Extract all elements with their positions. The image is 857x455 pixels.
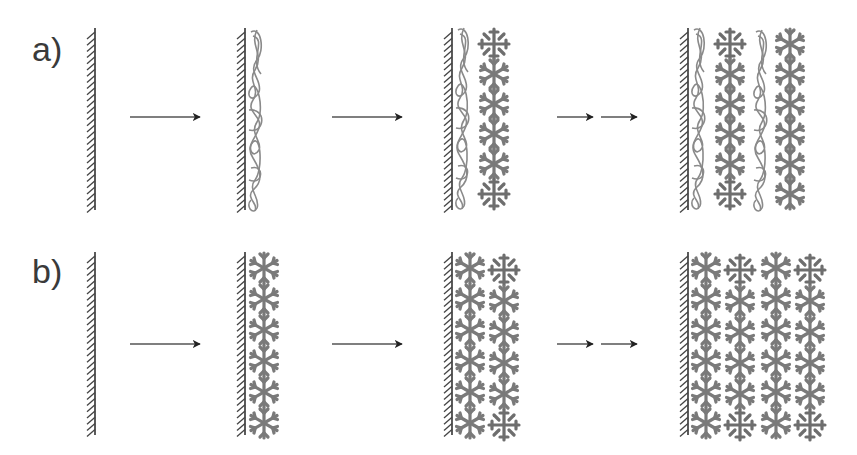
particle-icon <box>481 119 508 149</box>
wall-b-1 <box>87 252 95 437</box>
particle-icon <box>479 179 509 209</box>
particle-icon <box>725 410 755 440</box>
particle-icon <box>693 346 720 376</box>
polymer-coil-icon <box>249 30 262 211</box>
particle-icon <box>727 379 754 409</box>
particle-icon <box>715 179 745 209</box>
particle-icon <box>717 149 744 179</box>
particle-icon <box>251 315 278 345</box>
particle-icon <box>491 317 518 347</box>
particle-icon <box>797 317 824 347</box>
particle-icon <box>795 255 825 285</box>
particle-icon <box>763 377 790 407</box>
particle-icon <box>797 348 824 378</box>
diagram-canvas <box>0 0 857 455</box>
particle-icon <box>795 410 825 440</box>
particle-icon <box>693 408 720 438</box>
wall-a-2 <box>237 28 245 213</box>
wall-b-3 <box>444 252 452 437</box>
particle-icon <box>481 89 508 119</box>
wall-b-2 <box>237 252 245 437</box>
wall-a-4 <box>680 28 688 213</box>
particle-icon <box>763 253 790 283</box>
particle-icon <box>797 379 824 409</box>
particle-icon <box>777 29 804 59</box>
particle-icon <box>491 379 518 409</box>
particle-icon <box>693 284 720 314</box>
particle-icon <box>717 119 744 149</box>
particle-layers-2 <box>457 253 520 440</box>
particle-icon <box>251 253 278 283</box>
particle-icon <box>457 346 484 376</box>
particle-icon <box>489 255 519 285</box>
particle-icon <box>481 149 508 179</box>
polymer-layer <box>249 30 262 211</box>
particle-icon <box>717 89 744 119</box>
particle-layers-4 <box>693 253 826 440</box>
particle-icon <box>491 286 518 316</box>
particle-icon <box>777 89 804 119</box>
particle-layer-1 <box>251 253 278 438</box>
wall-a-1 <box>87 28 95 213</box>
particle-icon <box>717 59 744 89</box>
particle-icon <box>763 284 790 314</box>
wall-b-4 <box>680 252 688 437</box>
polymer-particle-layer <box>456 28 509 209</box>
particle-icon <box>457 284 484 314</box>
particle-icon <box>481 59 508 89</box>
particle-icon <box>251 346 278 376</box>
particle-icon <box>457 315 484 345</box>
particle-icon <box>777 149 804 179</box>
particle-icon <box>251 284 278 314</box>
particle-icon <box>725 255 755 285</box>
particle-icon <box>763 346 790 376</box>
particle-icon <box>457 253 484 283</box>
particle-icon <box>715 29 745 59</box>
particle-icon <box>777 119 804 149</box>
particle-icon <box>457 408 484 438</box>
particle-icon <box>479 29 509 59</box>
particle-icon <box>251 377 278 407</box>
particle-icon <box>727 317 754 347</box>
particle-icon <box>251 408 278 438</box>
wall-a-3 <box>444 28 452 213</box>
polymer-coil-icon <box>692 28 705 209</box>
particle-icon <box>693 377 720 407</box>
particle-icon <box>763 315 790 345</box>
particle-icon <box>489 410 519 440</box>
particle-icon <box>777 179 804 209</box>
polymer-coil-icon <box>456 28 469 209</box>
particle-icon <box>727 286 754 316</box>
particle-icon <box>693 253 720 283</box>
particle-icon <box>727 348 754 378</box>
polymer-coil-icon <box>754 30 767 211</box>
particle-icon <box>491 348 518 378</box>
particle-icon <box>693 315 720 345</box>
particle-icon <box>777 59 804 89</box>
particle-icon <box>797 286 824 316</box>
particle-icon <box>763 408 790 438</box>
particle-icon <box>457 377 484 407</box>
multilayer-a <box>692 28 804 211</box>
